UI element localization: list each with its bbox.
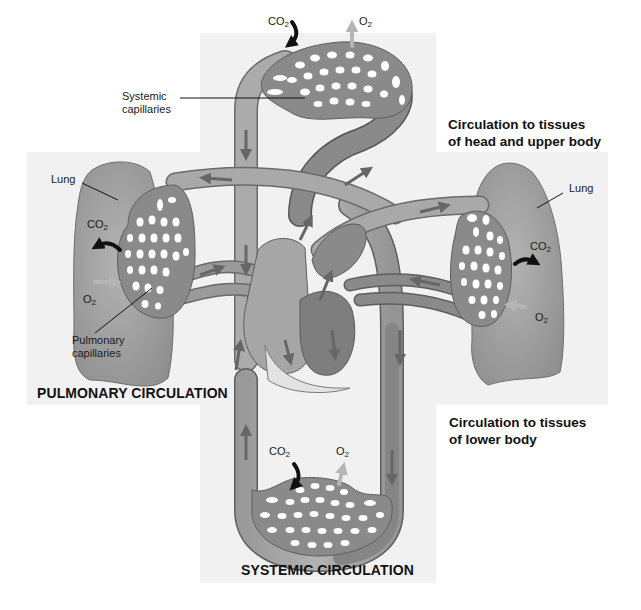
pulmonary-capillaries-right [450, 211, 511, 326]
systemic-circulation-heading: SYSTEMIC CIRCULATION [241, 562, 414, 578]
title-lower-body: Circulation to tissues of lower body [449, 414, 586, 448]
systemic-capillaries-label: Systemic capillaries [122, 90, 171, 116]
co2-label-left: CO2 [87, 218, 108, 234]
co2-label-right: CO2 [530, 240, 551, 256]
co2-label-upper: CO2 [268, 15, 289, 31]
o2-in-arrow-icon [510, 305, 525, 307]
lung-right-label: Lung [569, 182, 593, 195]
pulmonary-circulation-heading: PULMONARY CIRCULATION [37, 385, 228, 401]
o2-label-lower: O2 [336, 445, 349, 461]
circulation-diagram: CO2 O2 Systemic capillaries Circulation … [0, 0, 641, 610]
title-upper-body: Circulation to tissues of head and upper… [448, 116, 601, 150]
o2-label-upper: O2 [359, 15, 372, 31]
flow-arrow-left-icon [205, 178, 232, 180]
o2-label-left: O2 [83, 293, 96, 309]
co2-label-lower: CO2 [269, 445, 290, 461]
diagram-svg [0, 0, 641, 610]
pulmonary-capillaries-label: Pulmonary capillaries [72, 334, 125, 360]
o2-label-right: O2 [535, 311, 548, 327]
lung-left-label: Lung [51, 173, 75, 186]
